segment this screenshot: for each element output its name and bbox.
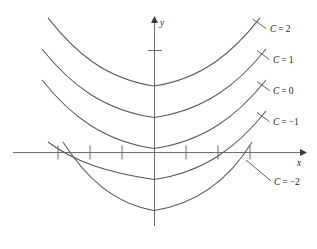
label-c-1-var: C [273,55,280,65]
label-c-2-val: 2 [286,24,291,34]
curve-labels-group: C=2 C=1 C=0 C=−1 C=−2 [270,24,300,187]
y-axis-arrowhead [151,16,158,23]
label-c-minus-2-var: C [274,177,281,187]
parabola-family-figure: x y [0,0,317,249]
label-c-1: C=1 [273,55,294,65]
curve-c-minus-1 [48,111,266,180]
label-c-minus-2-eq: = [282,177,287,187]
axes-group: x y [13,16,307,226]
label-c-0: C=0 [273,86,294,96]
label-c-minus-1-val: −1 [289,117,299,127]
label-c-2-eq: = [278,24,283,34]
x-axis-label: x [296,158,302,168]
label-c-minus-2-val: −2 [290,177,300,187]
label-c-2: C=2 [270,24,291,34]
x-axis-arrowhead [300,149,307,156]
label-c-0-eq: = [281,86,286,96]
label-c-1-val: 1 [289,55,294,65]
leader-c-minus-2 [246,160,271,181]
label-c-0-var: C [273,86,280,96]
label-c-minus-2: C=−2 [274,177,300,187]
y-axis-label: y [159,18,165,28]
label-c-minus-1-var: C [273,117,280,127]
label-c-1-eq: = [281,55,286,65]
label-c-minus-1: C=−1 [273,117,299,127]
label-c-minus-1-eq: = [281,117,286,127]
label-c-2-var: C [270,24,277,34]
leader-c-2 [253,19,267,29]
label-c-0-val: 0 [289,86,294,96]
